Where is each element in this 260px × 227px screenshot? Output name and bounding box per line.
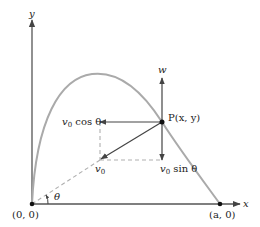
theta-label: θ bbox=[54, 191, 60, 202]
origin-label: (0, 0) bbox=[12, 209, 39, 220]
p-point-label: P(x, y) bbox=[168, 112, 200, 123]
y-axis-label: y bbox=[28, 8, 35, 19]
dashed-launch-direction bbox=[32, 160, 100, 204]
v0-vector bbox=[101, 122, 162, 159]
v0-cos-label: v0 cos θ bbox=[62, 116, 101, 129]
v0-sub: 0 bbox=[101, 168, 105, 176]
v0-sin-label: v0 sin θ bbox=[160, 163, 197, 176]
v0-label: v0 bbox=[95, 163, 105, 176]
end-point bbox=[218, 202, 223, 207]
v0-cos-rest: cos θ bbox=[72, 116, 101, 127]
origin-point bbox=[30, 202, 35, 207]
end-point-label: (a, 0) bbox=[209, 209, 236, 220]
v0-sin-rest: sin θ bbox=[170, 163, 197, 174]
projectile-diagram: y x (0, 0) (a, 0) P(x, y) w θ v0 cos θ v… bbox=[0, 0, 260, 227]
trajectory-curve bbox=[32, 74, 220, 204]
x-axis-label: x bbox=[243, 198, 249, 209]
theta-arc bbox=[46, 195, 48, 204]
p-point bbox=[160, 120, 165, 125]
w-label: w bbox=[158, 64, 167, 75]
